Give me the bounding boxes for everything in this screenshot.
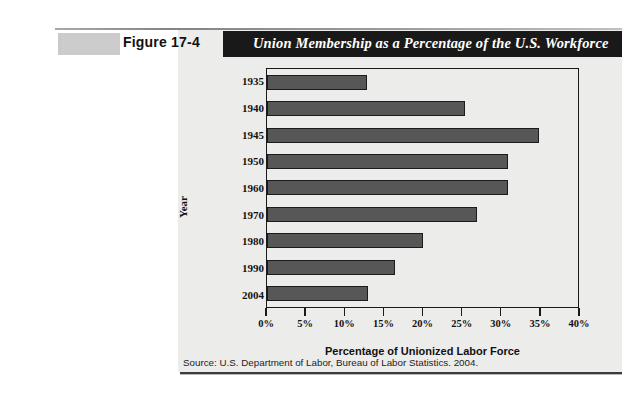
x-axis-tick-mark [422, 308, 423, 316]
y-axis-label-1945: 1945 [242, 129, 264, 141]
x-axis-label-30: 30% [490, 318, 511, 329]
bar-2004 [267, 286, 368, 301]
y-axis-label-row: 1980 [178, 234, 266, 249]
x-axis-label-35: 35% [529, 318, 550, 329]
x-axis-label-25: 25% [451, 318, 472, 329]
bar-1970 [267, 207, 477, 222]
y-axis-label-row: 1945 [178, 127, 266, 142]
x-axis-label-20: 20% [412, 318, 433, 329]
y-axis-label-row: 1960 [178, 180, 266, 195]
x-axis-label-0: 0% [258, 318, 274, 329]
bar-series [267, 69, 578, 307]
y-axis-label-1970: 1970 [242, 209, 264, 221]
plot-area [266, 68, 579, 308]
y-axis-label-row: 1990 [178, 260, 266, 275]
x-axis-ticks [266, 308, 579, 316]
y-axis-label-1990: 1990 [242, 262, 264, 274]
x-axis-tick-mark [265, 308, 266, 316]
x-axis-label-5: 5% [297, 318, 313, 329]
x-axis-tick-mark [539, 308, 540, 316]
y-axis-label-1940: 1940 [242, 102, 264, 114]
figure-header: Figure 17-4 Union Membership as a Percen… [55, 31, 622, 57]
bar-1990 [267, 260, 395, 275]
x-axis-tick-mark [500, 308, 501, 316]
y-axis-tick-labels: 193519401945195019601970198019902004 [178, 68, 266, 308]
y-axis-label-row: 1935 [178, 74, 266, 89]
bar-row [267, 154, 578, 169]
bar-chart: Year 19351940194519501960197019801990200… [178, 57, 622, 357]
x-axis-label-10: 10% [334, 318, 355, 329]
x-axis-tick-mark [304, 308, 305, 316]
y-axis-label-row: 1970 [178, 207, 266, 222]
bar-row [267, 260, 578, 275]
figure-container: Figure 17-4 Union Membership as a Percen… [0, 0, 642, 402]
bar-row [267, 75, 578, 90]
x-axis-tick-mark [383, 308, 384, 316]
bar-1945 [267, 128, 539, 143]
bar-1940 [267, 101, 465, 116]
bar-row [267, 233, 578, 248]
figure-title-bar: Union Membership as a Percentage of the … [223, 31, 622, 57]
bar-1950 [267, 154, 508, 169]
figure-title: Union Membership as a Percentage of the … [253, 35, 609, 52]
bar-row [267, 180, 578, 195]
x-axis-tick-mark [461, 308, 462, 316]
bar-row [267, 286, 578, 301]
x-axis-tick-mark [578, 308, 579, 316]
y-axis-label-row: 1940 [178, 100, 266, 115]
x-axis-title: Percentage of Unionized Labor Force [266, 345, 579, 357]
x-axis-label-40: 40% [569, 318, 590, 329]
y-axis-label-2004: 2004 [242, 289, 264, 301]
y-axis-label-row: 2004 [178, 287, 266, 302]
bar-1935 [267, 75, 367, 90]
figure-number-label: Figure 17-4 [123, 34, 200, 50]
x-axis-label-15: 15% [373, 318, 394, 329]
y-axis-label-row: 1950 [178, 154, 266, 169]
bar-row [267, 128, 578, 143]
bar-row [267, 101, 578, 116]
figure-source-note: Source: U.S. Department of Labor, Bureau… [183, 357, 478, 368]
figure-swatch [55, 33, 120, 55]
bar-1960 [267, 180, 508, 195]
bottom-divider-rule-soft [180, 374, 622, 375]
y-axis-label-1980: 1980 [242, 235, 264, 247]
bar-row [267, 207, 578, 222]
x-axis-tick-mark [344, 308, 345, 316]
bar-1980 [267, 233, 423, 248]
y-axis-label-1935: 1935 [242, 75, 264, 87]
y-axis-label-1950: 1950 [242, 155, 264, 167]
figure-swatch-inner [61, 33, 120, 55]
y-axis-label-1960: 1960 [242, 182, 264, 194]
x-axis-tick-labels: 0%5%10%15%20%25%30%35%40% [266, 318, 579, 334]
